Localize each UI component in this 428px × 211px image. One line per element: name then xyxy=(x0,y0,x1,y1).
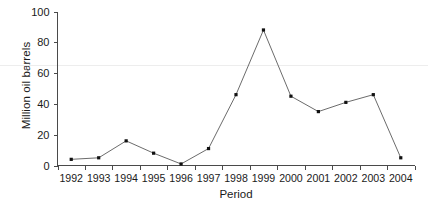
data-point xyxy=(97,156,100,159)
data-point xyxy=(179,162,182,165)
y-tick-label: 100 xyxy=(31,6,49,18)
x-tick-label: 1994 xyxy=(114,172,138,184)
x-tick-label: 1995 xyxy=(142,172,166,184)
data-point xyxy=(262,28,265,31)
x-axis-ticks xyxy=(59,166,416,170)
x-tick-label: 1996 xyxy=(169,172,193,184)
data-point xyxy=(70,158,73,161)
x-axis-title: Period xyxy=(57,188,415,200)
y-tick-label: 80 xyxy=(37,36,49,48)
line-chart: Million oil barrels 020406080100 1992199… xyxy=(0,0,428,211)
data-point xyxy=(399,156,402,159)
x-tick-label: 2003 xyxy=(362,172,386,184)
data-point xyxy=(344,101,347,104)
x-tick-label: 2000 xyxy=(279,172,303,184)
data-point xyxy=(372,93,375,96)
x-tick-label: 2002 xyxy=(334,172,358,184)
x-tick-label: 1999 xyxy=(252,172,276,184)
y-tick-label: 60 xyxy=(37,67,49,79)
data-point xyxy=(289,95,292,98)
y-axis-ticks xyxy=(54,12,58,166)
y-tick-label: 0 xyxy=(43,160,49,172)
data-point xyxy=(207,147,210,150)
x-tick-label: 2001 xyxy=(307,172,331,184)
y-tick-label: 20 xyxy=(37,129,49,141)
x-tick-label: 1997 xyxy=(197,172,221,184)
y-tick-label: 40 xyxy=(37,98,49,110)
data-point xyxy=(234,93,237,96)
data-series-line xyxy=(71,30,401,164)
data-point xyxy=(152,152,155,155)
x-tick-label: 1992 xyxy=(59,172,83,184)
data-point xyxy=(125,139,128,142)
x-tick-label: 1993 xyxy=(87,172,111,184)
x-axis-tick-labels: 1992199319941995199619971998199920002001… xyxy=(59,172,412,184)
x-tick-label: 1998 xyxy=(224,172,248,184)
plot-area: 020406080100 199219931994199519961997199… xyxy=(0,0,428,211)
x-tick-label: 2004 xyxy=(389,172,413,184)
data-point xyxy=(317,110,320,113)
y-axis-tick-labels: 020406080100 xyxy=(31,6,49,172)
